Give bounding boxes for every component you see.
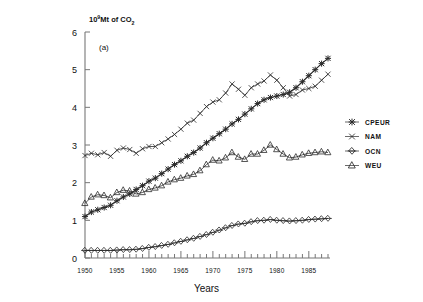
legend-label-cpeur: CPEUR: [365, 119, 390, 126]
x-tick-label: 1980: [269, 267, 284, 274]
x-tick-label: 1985: [301, 267, 316, 274]
y-tick-label: 6: [72, 28, 77, 38]
legend-label-ocn: OCN: [365, 148, 381, 155]
x-tick-label: 1960: [141, 267, 156, 274]
legend-label-nam: NAM: [365, 133, 381, 140]
y-tick-label: 0: [72, 254, 77, 264]
y-tick-label: 2: [72, 178, 77, 188]
chart-svg: 012345619501955196019651970197519801985Y…: [0, 0, 423, 302]
y-axis-label: 109Mt of CO2: [89, 14, 135, 26]
x-tick-label: 1970: [205, 267, 220, 274]
marker-triangle: [95, 192, 101, 197]
marker-triangle: [210, 157, 216, 162]
y-tick-label: 1: [72, 216, 77, 226]
series-weu: [82, 142, 331, 206]
x-tick-label: 1975: [237, 267, 252, 274]
marker-triangle: [349, 162, 356, 168]
y-tick-label: 5: [72, 65, 77, 75]
marker-triangle: [319, 149, 325, 154]
chart-figure: 012345619501955196019651970197519801985Y…: [0, 0, 423, 302]
y-tick-label: 3: [72, 141, 77, 151]
x-tick-label: 1950: [77, 267, 92, 274]
series-ocn: [82, 216, 332, 254]
marker-triangle: [248, 151, 254, 156]
panel-label: (a): [99, 43, 109, 52]
x-axis-title: Years: [194, 283, 219, 294]
legend-label-weu: WEU: [365, 162, 382, 169]
legend: CPEURNAMOCNWEU: [345, 119, 390, 170]
x-tick-label: 1965: [173, 267, 188, 274]
y-tick-label: 4: [72, 103, 77, 113]
series-line-cpeur: [85, 58, 328, 216]
x-tick-label: 1955: [109, 267, 124, 274]
marker-triangle: [120, 187, 126, 192]
marker-triangle: [140, 189, 146, 194]
